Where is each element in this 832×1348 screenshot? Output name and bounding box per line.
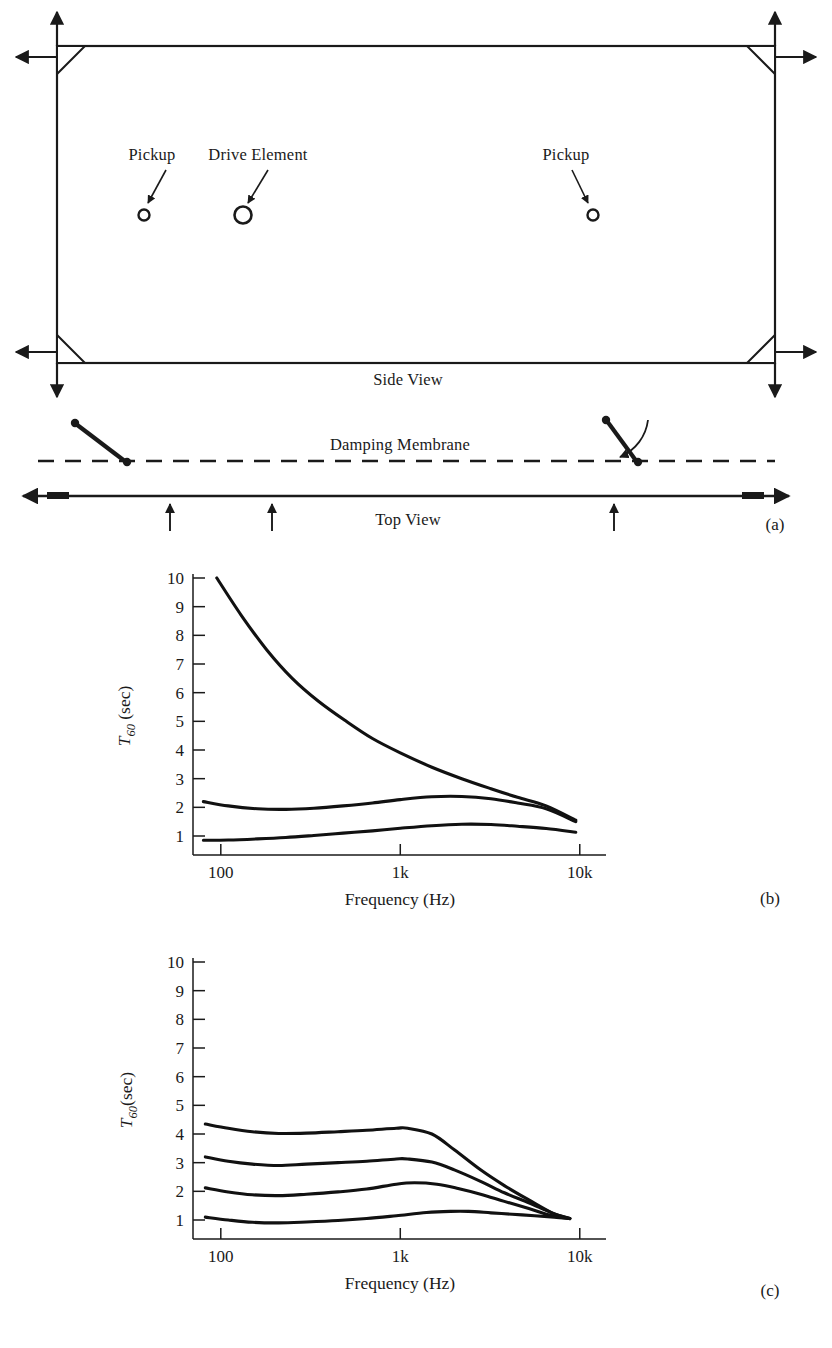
chart-b-y-axis-title-unit: (sec) <box>114 686 134 725</box>
chart-c-y-tick-label: 3 <box>176 1154 185 1173</box>
damper-arm-left-pivot <box>71 419 79 427</box>
chart-c-y-ticks: 12345678910 <box>167 953 205 1230</box>
damper-motion-arrow <box>620 420 648 457</box>
chart-c-y-axis-title-unit: (sec) <box>116 1072 136 1106</box>
chart-b-y-tick-label: 2 <box>176 798 185 817</box>
chart-b-y-tick-label: 8 <box>176 626 185 645</box>
chart-b-y-ticks: 12345678910 <box>167 569 205 846</box>
drive-element-transducer-icon <box>235 207 252 224</box>
pickup-right-leader <box>572 170 588 203</box>
corner-brace-top-right <box>747 46 775 74</box>
chart-b-curve-2 <box>203 796 575 821</box>
chart-b-curve-1 <box>217 578 576 820</box>
pickup-left-transducer-icon <box>139 210 150 221</box>
chart-c-y-tick-label: 6 <box>176 1068 185 1087</box>
chart-c-y-axis-title-subscript: 60 <box>126 1105 140 1118</box>
chart-b-x-ticks: 1001k10k <box>208 844 593 882</box>
damper-arm-right-pivot <box>602 416 610 424</box>
chart-c-y-tick-label: 9 <box>176 982 185 1001</box>
chart-b-y-tick-label: 6 <box>176 684 185 703</box>
chart-b-y-tick-label: 7 <box>176 655 185 674</box>
chart-c-svg: 12345678910 1001k10k Frequency (Hz) T60(… <box>0 940 832 1348</box>
chart-c-y-tick-label: 8 <box>176 1010 185 1029</box>
corner-brace-bottom-right <box>747 335 775 363</box>
chart-c-curve-4 <box>205 1211 569 1223</box>
chart-c-x-tick-label: 100 <box>208 1247 234 1266</box>
chart-b-y-tick-label: 3 <box>176 770 185 789</box>
chart-c-curve-2 <box>205 1157 569 1219</box>
panel-b-caption: (b) <box>760 889 780 908</box>
damper-arm-left-tip <box>123 458 131 466</box>
pickup-left-label: Pickup <box>128 145 175 164</box>
chart-c-y-axis-title: T60(sec) <box>116 1072 140 1128</box>
damper-arm-left <box>76 424 126 462</box>
chart-c-x-tick-label: 10k <box>567 1247 593 1266</box>
chart-c-curves <box>205 1124 569 1223</box>
chart-b-y-axis-title-subscript: 60 <box>124 723 138 736</box>
panel-c-chart: 12345678910 1001k10k Frequency (Hz) T60(… <box>0 940 832 1348</box>
chart-b-y-tick-label: 10 <box>167 569 184 588</box>
figure-root: Pickup Drive Element Pickup Side View Da… <box>0 0 832 1348</box>
chart-b-x-tick-label: 100 <box>208 863 234 882</box>
side-view-label: Side View <box>373 370 443 389</box>
pickup-left-leader <box>148 170 166 203</box>
chart-b-y-tick-label: 4 <box>176 741 185 760</box>
pickup-right-label: Pickup <box>542 145 589 164</box>
panel-a-diagram: Pickup Drive Element Pickup Side View Da… <box>0 0 832 556</box>
page-bottom-bleed-text <box>0 1334 832 1348</box>
chart-b-y-tick-label: 5 <box>176 712 185 731</box>
drive-element-label: Drive Element <box>208 145 307 164</box>
chart-b-curve-3 <box>203 824 575 840</box>
chart-c-axes <box>193 958 606 1239</box>
chart-b-x-tick-label: 10k <box>567 863 593 882</box>
chart-c-x-ticks: 1001k10k <box>208 1228 593 1266</box>
chart-c-y-tick-label: 1 <box>176 1211 185 1230</box>
chart-b-y-tick-label: 1 <box>176 827 185 846</box>
chart-c-x-axis-title: Frequency (Hz) <box>345 1273 455 1293</box>
damping-membrane-label: Damping Membrane <box>330 435 470 454</box>
panel-a-caption: (a) <box>766 515 785 534</box>
top-view-mount-right <box>742 492 764 499</box>
top-view-mount-left <box>47 492 69 499</box>
pickup-right-transducer-icon <box>588 210 599 221</box>
chart-c-y-tick-label: 5 <box>176 1096 185 1115</box>
chart-b-y-tick-label: 9 <box>176 598 185 617</box>
corner-brace-bottom-left <box>57 335 85 363</box>
chart-b-svg: 12345678910 1001k10k Frequency (Hz) T60 … <box>0 556 832 948</box>
chart-b-x-tick-label: 1k <box>392 863 410 882</box>
damper-arm-right-tip <box>634 458 642 466</box>
chart-c-y-tick-label: 4 <box>176 1125 185 1144</box>
side-top-view-svg: Pickup Drive Element Pickup Side View Da… <box>0 0 832 556</box>
panel-b-chart: 12345678910 1001k10k Frequency (Hz) T60 … <box>0 556 832 948</box>
chart-c-x-tick-label: 1k <box>392 1247 410 1266</box>
chart-b-y-axis-title: T60 (sec) <box>114 686 138 747</box>
chart-b-curves <box>203 578 575 840</box>
panel-c-caption: (c) <box>761 1281 780 1300</box>
chart-c-y-tick-label: 7 <box>176 1039 185 1058</box>
chart-b-x-axis-title: Frequency (Hz) <box>345 889 455 909</box>
corner-brace-top-left <box>57 46 85 74</box>
chart-c-y-tick-label: 2 <box>176 1182 185 1201</box>
top-view-label: Top View <box>375 510 441 529</box>
drive-element-leader <box>248 170 268 203</box>
chart-c-y-tick-label: 10 <box>167 953 184 972</box>
plate-outline <box>57 46 775 363</box>
chart-b-axes <box>193 574 606 855</box>
